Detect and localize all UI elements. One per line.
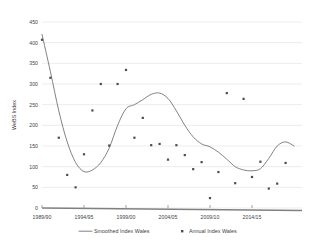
x-tick-label: 1989/90 bbox=[33, 214, 52, 220]
data-point-marker bbox=[150, 144, 152, 146]
data-point-marker bbox=[66, 174, 68, 176]
data-point-marker bbox=[41, 39, 43, 41]
webs-index-wales-chart: 050100150200250300350400450 1989/901994/… bbox=[0, 0, 317, 245]
data-point-marker bbox=[125, 69, 127, 71]
data-point-marker bbox=[251, 176, 253, 178]
y-tick-label: 150 bbox=[29, 143, 38, 149]
chart-container: 050100150200250300350400450 1989/901994/… bbox=[0, 0, 317, 245]
data-point-marker bbox=[100, 83, 102, 85]
data-point-marker bbox=[49, 77, 51, 79]
y-tick-label: 100 bbox=[29, 164, 38, 170]
data-point-marker bbox=[243, 98, 245, 100]
data-point-marker bbox=[175, 144, 177, 146]
data-point-marker bbox=[184, 154, 186, 156]
x-tick-label: 1994/95 bbox=[75, 214, 94, 220]
data-point-marker bbox=[142, 117, 144, 119]
x-tick-label: 1999/00 bbox=[117, 214, 136, 220]
data-point-marker bbox=[159, 143, 161, 145]
x-tick-label: 2009/10 bbox=[201, 214, 220, 220]
data-point-marker bbox=[226, 92, 228, 94]
data-point-marker bbox=[201, 161, 203, 163]
data-point-marker bbox=[58, 137, 60, 139]
data-point-marker bbox=[268, 187, 270, 189]
x-tick-label: 2004/05 bbox=[159, 214, 178, 220]
data-point-marker bbox=[276, 183, 278, 185]
data-point-marker bbox=[91, 109, 93, 111]
legend-label-annual: Annual Index Wales bbox=[189, 228, 237, 234]
y-tick-label: 300 bbox=[29, 81, 38, 87]
y-tick-label: 450 bbox=[29, 19, 38, 25]
data-point-marker bbox=[259, 161, 261, 163]
y-axis-title: WeBS Index bbox=[11, 100, 17, 130]
legend-marker-swatch bbox=[181, 230, 183, 232]
x-tick-label: 2014/15 bbox=[243, 214, 262, 220]
data-point-marker bbox=[234, 182, 236, 184]
legend-label-smoothed: Smoothed Index Wales bbox=[94, 228, 150, 234]
y-tick-label: 400 bbox=[29, 40, 38, 46]
y-tick-label: 350 bbox=[29, 60, 38, 66]
data-point-marker bbox=[167, 159, 169, 161]
data-point-marker bbox=[83, 153, 85, 155]
data-point-marker bbox=[217, 171, 219, 173]
y-tick-label: 50 bbox=[32, 184, 38, 190]
data-point-marker bbox=[108, 144, 110, 146]
y-tick-label: 0 bbox=[35, 205, 38, 211]
y-tick-label: 200 bbox=[29, 122, 38, 128]
data-point-marker bbox=[285, 162, 287, 164]
data-point-marker bbox=[209, 197, 211, 199]
data-point-marker bbox=[117, 83, 119, 85]
y-tick-label: 250 bbox=[29, 102, 38, 108]
data-point-marker bbox=[192, 168, 194, 170]
data-point-marker bbox=[75, 186, 77, 188]
data-point-marker bbox=[133, 137, 135, 139]
